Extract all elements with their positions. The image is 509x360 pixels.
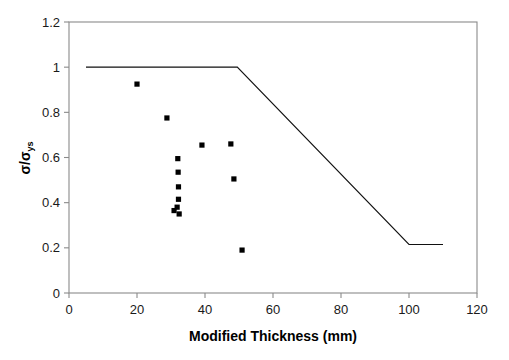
y-axis-tick-labels: 00.20.40.60.811.2 bbox=[42, 15, 60, 301]
y-axis-title-group: σ/σys bbox=[17, 141, 35, 174]
data-point-11 bbox=[177, 211, 182, 216]
x-tick-label-1: 20 bbox=[130, 302, 144, 317]
chart-figure: 00.20.40.60.811.2 020406080100120 Modifi… bbox=[0, 0, 509, 360]
y-axis-ticks bbox=[64, 22, 69, 293]
data-point-3 bbox=[175, 156, 180, 161]
x-tick-label-0: 0 bbox=[65, 302, 72, 317]
y-tick-label-1: 0.2 bbox=[42, 240, 60, 255]
plot-area-background bbox=[69, 22, 477, 293]
x-tick-label-5: 100 bbox=[398, 302, 420, 317]
y-tick-label-6: 1.2 bbox=[42, 15, 60, 30]
x-tick-label-3: 60 bbox=[266, 302, 280, 317]
data-point-7 bbox=[176, 184, 181, 189]
scatter-plot: 00.20.40.60.811.2 020406080100120 Modifi… bbox=[0, 0, 509, 360]
y-tick-label-2: 0.4 bbox=[42, 195, 60, 210]
data-point-2 bbox=[199, 142, 204, 147]
y-tick-label-5: 1 bbox=[53, 60, 60, 75]
data-point-0 bbox=[134, 82, 139, 87]
data-point-4 bbox=[228, 141, 233, 146]
y-tick-label-0: 0 bbox=[53, 286, 60, 301]
data-point-6 bbox=[231, 176, 236, 181]
data-point-5 bbox=[176, 170, 181, 175]
data-point-10 bbox=[171, 208, 176, 213]
data-point-12 bbox=[239, 247, 244, 252]
x-axis-title: Modified Thickness (mm) bbox=[189, 328, 357, 344]
y-tick-label-4: 0.8 bbox=[42, 105, 60, 120]
data-point-1 bbox=[164, 115, 169, 120]
x-axis-tick-labels: 020406080100120 bbox=[65, 302, 487, 317]
x-axis-ticks bbox=[69, 293, 477, 298]
x-tick-label-6: 120 bbox=[466, 302, 488, 317]
y-axis-title: σ/σys bbox=[17, 141, 35, 174]
y-tick-label-3: 0.6 bbox=[42, 150, 60, 165]
x-tick-label-2: 40 bbox=[198, 302, 212, 317]
x-tick-label-4: 80 bbox=[334, 302, 348, 317]
data-point-8 bbox=[176, 197, 181, 202]
